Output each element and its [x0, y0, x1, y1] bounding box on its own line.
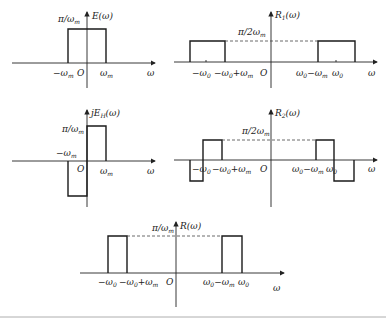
tick-neg-w0: −ω0 [192, 68, 211, 79]
tick-neg-w0-plus-wm: −ω0+ωm [214, 68, 254, 79]
signal-r1-left [190, 41, 225, 62]
tick-w0-minus-wm: ω0−ωm [292, 164, 324, 175]
origin-label: O [77, 164, 85, 174]
panel-r2: R2(ω) π/2ωm −ω0 −ω0+ωm O ω0−ωm ω0 ω [174, 108, 377, 207]
tick-wm: ωm [100, 68, 113, 79]
signal-r1-right [318, 41, 355, 62]
origin-label: O [77, 68, 85, 78]
signal-r-left [108, 236, 127, 273]
x-label: ω [273, 283, 281, 293]
tick-neg-w0: −ω0 [192, 164, 211, 175]
origin-label: O [260, 164, 268, 174]
title-r2: R2(ω) [274, 108, 300, 119]
panel-jeh: jEH(ω) π/ωm −ωm O ωm ω [12, 108, 155, 207]
title-jeh: jEH(ω) [89, 108, 120, 119]
panel-e: π/ωm E(ω) −ωm O ωm ω [12, 11, 155, 88]
tick-neg-w0-plus-wm: −ω0+ωm [119, 277, 159, 288]
spectrum-diagram: π/ωm E(ω) −ωm O ωm ω R1(ω) π/2ωm −ω0 −ω0… [0, 0, 386, 320]
tick-wm: ωm [100, 166, 113, 177]
panel-r: π/ωm R(ω) −ω0 −ω0+ωm O ω0−ωm ω0 ω [80, 221, 284, 307]
title-e: E(ω) [91, 11, 113, 21]
tick-w0-minus-wm: ω0−ωm [203, 277, 235, 288]
signal-r-right [222, 236, 242, 273]
tick-neg-wm: −ωm [56, 148, 77, 159]
title-r1: R1(ω) [274, 10, 300, 21]
signal-jeh-positive [87, 126, 106, 161]
origin-label: O [166, 277, 174, 287]
tick-w0: ω0 [326, 164, 337, 175]
tick-w0-minus-wm: ω0−ωm [296, 68, 328, 79]
panel-r1: R1(ω) π/2ωm −ω0 −ω0+ωm O ω0−ωm ω0 ω [174, 10, 377, 88]
x-label: ω [147, 68, 155, 78]
tick-neg-wm: −ωm [53, 68, 74, 79]
origin-label: O [260, 68, 268, 78]
tick-w0: ω0 [332, 68, 343, 79]
amp-label: π/2ωm [237, 27, 266, 38]
x-label: ω [368, 68, 376, 78]
amp-label: π/2ωm [241, 126, 270, 137]
x-label: ω [147, 166, 155, 176]
amp-label: π/ωm [61, 124, 84, 135]
amp-label: π/ωm [151, 223, 174, 234]
amp-label: π/ωm [57, 14, 80, 25]
title-r: R(ω) [179, 221, 202, 231]
x-label: ω [368, 164, 376, 174]
tick-neg-w0: −ω0 [98, 277, 117, 288]
tick-w0: ω0 [238, 277, 249, 288]
tick-neg-w0-plus-wm: −ω0+ωm [212, 164, 252, 175]
